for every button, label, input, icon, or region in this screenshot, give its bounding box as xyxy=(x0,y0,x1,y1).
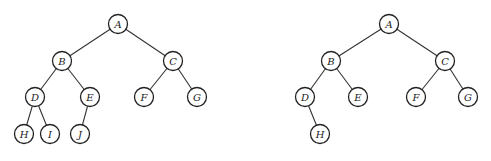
tree-node-f: F xyxy=(407,88,426,107)
node-label: J xyxy=(76,129,83,140)
tree-node-j: J xyxy=(71,125,90,144)
tree-node-g: G xyxy=(459,88,478,107)
node-label: G xyxy=(193,92,201,103)
node-label: B xyxy=(326,56,334,67)
left-binary-tree: ABCDEFGHIJ xyxy=(15,15,207,144)
node-label: F xyxy=(140,92,149,103)
node-label: G xyxy=(464,92,472,103)
tree-node-a: A xyxy=(380,15,399,34)
tree-node-f: F xyxy=(135,88,154,107)
edge-a-b xyxy=(331,24,389,61)
node-label: E xyxy=(85,92,94,103)
binary-trees-diagram: ABCDEFGHIJ ABCDEFGH xyxy=(0,0,491,161)
tree-node-i: I xyxy=(41,125,60,144)
tree-node-b: B xyxy=(322,52,341,71)
node-label: E xyxy=(353,92,362,103)
node-label: D xyxy=(300,92,309,103)
node-label: H xyxy=(19,129,29,140)
tree-node-b: B xyxy=(53,52,72,71)
tree-node-e: E xyxy=(349,88,368,107)
node-label: C xyxy=(169,56,177,67)
tree-node-e: E xyxy=(81,88,100,107)
tree-node-h: H xyxy=(15,125,34,144)
tree-node-a: A xyxy=(109,15,128,34)
tree-node-h: H xyxy=(311,125,330,144)
tree-node-d: D xyxy=(26,88,45,107)
node-label: A xyxy=(113,19,121,30)
node-label: B xyxy=(57,56,65,67)
node-label: F xyxy=(412,92,421,103)
node-label: H xyxy=(315,129,325,140)
node-label: A xyxy=(384,19,392,30)
tree-node-g: G xyxy=(188,88,207,107)
tree-node-c: C xyxy=(164,52,183,71)
tree-node-c: C xyxy=(436,52,455,71)
node-label: D xyxy=(30,92,39,103)
tree-node-d: D xyxy=(296,88,315,107)
right-binary-tree: ABCDEFGH xyxy=(296,15,478,144)
node-label: C xyxy=(441,56,449,67)
